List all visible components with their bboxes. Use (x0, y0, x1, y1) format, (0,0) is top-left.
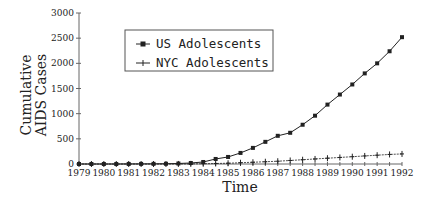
x-tick-label: 1980 (92, 168, 115, 178)
x-tick-label: 1990 (341, 168, 364, 178)
x-tick-label: 1991 (366, 168, 389, 178)
y-axis-title-line1: Cumulative (18, 54, 34, 135)
x-tick-label: 1982 (142, 168, 165, 178)
x-tick-label: 1987 (266, 168, 289, 178)
y-tick-label: 1500 (51, 84, 74, 94)
x-axis-title: Time (222, 179, 257, 195)
x-tick-label: 1983 (167, 168, 190, 178)
y-tick-label: 2500 (51, 33, 74, 43)
legend-item-nyc: NYC Adolescents (136, 55, 269, 70)
y-axis-title-line2: AIDS Cases (33, 54, 49, 138)
x-tick-label: 1992 (391, 168, 414, 178)
line-chart: 0500100015002000250030001979198019811982… (0, 0, 431, 202)
x-tick-label: 1989 (316, 168, 339, 178)
legend: US Adolescents NYC Adolescents (125, 30, 273, 71)
x-tick-label: 1984 (192, 168, 215, 178)
x-tick-label: 1986 (241, 168, 264, 178)
x-tick-label: 1988 (291, 168, 314, 178)
y-tick-label: 1000 (51, 109, 74, 119)
y-tick-label: 3000 (51, 8, 74, 18)
y-tick-label: 500 (57, 134, 74, 144)
y-tick-label: 2000 (51, 58, 74, 68)
x-tick-label: 1985 (217, 168, 240, 178)
x-tick-label: 1981 (117, 168, 140, 178)
square-marker-icon (141, 42, 146, 47)
x-tick-label: 1979 (68, 168, 91, 178)
legend-label-nyc: NYC Adolescents (156, 55, 269, 70)
legend-label-us: US Adolescents (156, 36, 261, 51)
